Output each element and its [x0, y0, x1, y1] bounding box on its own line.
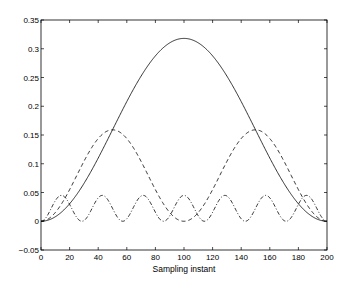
y-tick-label: 0.2 — [28, 102, 40, 111]
chart: 020406080100120140160180200 −0.0500.050.… — [0, 0, 350, 284]
y-tick-label: 0.15 — [23, 131, 39, 140]
x-tick-label: 160 — [263, 253, 277, 262]
y-tick-label: 0.35 — [23, 16, 39, 25]
x-tick-label: 20 — [65, 253, 74, 262]
x-tick-label: 100 — [177, 253, 191, 262]
x-tick-label: 80 — [151, 253, 160, 262]
y-tick-label: 0 — [35, 217, 40, 226]
x-tick-label: 120 — [206, 253, 220, 262]
x-tick-label: 180 — [292, 253, 306, 262]
x-tick-label: 40 — [94, 253, 103, 262]
x-tick-label: 60 — [122, 253, 131, 262]
y-tick-label: 0.3 — [28, 45, 40, 54]
x-tick-label: 200 — [320, 253, 334, 262]
x-tick-label: 140 — [235, 253, 249, 262]
x-tick-label: 0 — [39, 253, 44, 262]
y-tick-label: 0.05 — [23, 189, 39, 198]
x-axis-label: Sampling instant — [153, 264, 216, 274]
y-tick-label: 0.25 — [23, 74, 39, 83]
y-tick-label: 0.1 — [28, 160, 40, 169]
plot-area — [41, 20, 327, 250]
y-tick-label: −0.05 — [19, 246, 40, 255]
